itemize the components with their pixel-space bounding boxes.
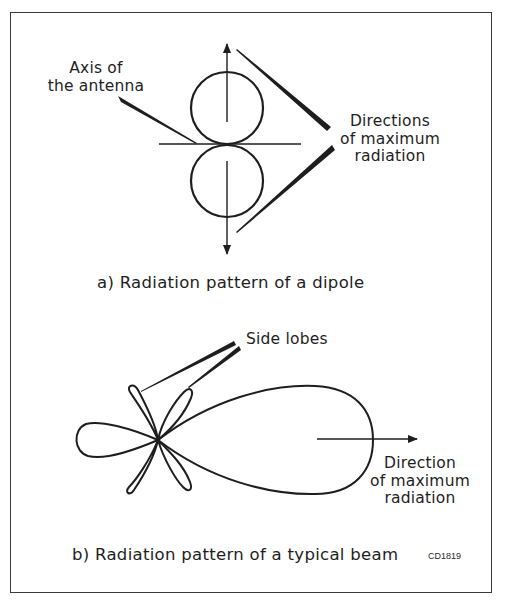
side-lobe-lower-right — [158, 440, 191, 490]
antenna-radiation-figure: Axis of the antenna Directions of maximu… — [0, 0, 511, 613]
dipole-pattern — [159, 44, 301, 254]
caption-a: a) Radiation pattern of a dipole — [97, 273, 364, 292]
axis-label: Axis of the antenna — [36, 60, 156, 95]
side-lobe-upper-right — [158, 389, 192, 440]
direction-label: Direction of maximum radiation — [360, 455, 480, 508]
directions-label-line2: of maximum — [330, 131, 450, 149]
direction-leader-upper — [236, 49, 331, 131]
side-lobe-upper-left — [129, 386, 158, 440]
direction-leader-lower — [236, 145, 335, 233]
direction-label-line1: Direction — [360, 455, 480, 473]
figure-code: CD1819 — [428, 551, 461, 561]
side-lobe-leader-1 — [141, 341, 236, 392]
direction-label-line2: of maximum — [360, 473, 480, 491]
caption-b: b) Radiation pattern of a typical beam — [72, 545, 398, 564]
beam-leaders — [141, 341, 241, 392]
back-lobe — [76, 423, 158, 457]
directions-label-line1: Directions — [330, 113, 450, 131]
directions-label: Directions of maximum radiation — [330, 113, 450, 166]
axis-label-line1: Axis of — [36, 60, 156, 78]
side-lobe-lower-left — [127, 440, 158, 493]
side-lobes-label: Side lobes — [246, 331, 328, 349]
axis-leader — [118, 96, 197, 144]
axis-label-line2: the antenna — [36, 78, 156, 96]
directions-label-line3: radiation — [330, 148, 450, 166]
direction-label-line3: radiation — [360, 490, 480, 508]
